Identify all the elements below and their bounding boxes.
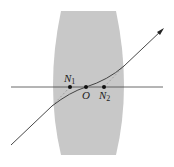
light-ray bbox=[11, 106, 52, 145]
lens-diagram: N1 O N2 bbox=[0, 0, 174, 167]
light-ray-exit bbox=[124, 30, 162, 66]
label-o: O bbox=[82, 89, 90, 101]
